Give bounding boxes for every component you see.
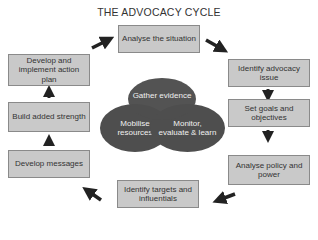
center-gather-evidence: Gather evidence <box>128 78 196 120</box>
step-analyse-situation: Analyse the situation <box>118 25 200 53</box>
step-identify-advocacy-issue: Identify advocacy issue <box>228 59 310 87</box>
step-label: Develop messages <box>15 159 83 169</box>
step-label: Analyse policy and power <box>232 161 306 180</box>
step-label: Identify targets and influentials <box>121 185 195 204</box>
center-label: Gather evidence <box>132 91 192 101</box>
step-develop-messages: Develop messages <box>8 150 90 178</box>
arrow-icon <box>88 191 101 200</box>
step-label: Analyse the situation <box>122 34 196 44</box>
arrow-icon <box>219 194 235 200</box>
arrow-icon <box>206 40 222 49</box>
step-develop-action-plan: Develop and implement action plan <box>8 54 90 86</box>
step-label: Identify advocacy issue <box>232 64 306 83</box>
step-build-strength: Build added strength <box>8 102 90 132</box>
step-identify-targets: Identify targets and influentials <box>117 180 199 208</box>
step-label: Build added strength <box>12 112 85 122</box>
arrow-icon <box>92 40 108 48</box>
step-label: Set goals and objectives <box>232 104 306 123</box>
step-label: Develop and implement action plan <box>12 56 86 85</box>
step-set-goals: Set goals and objectives <box>228 99 310 127</box>
center-label: Monitor, evaluate & learn <box>158 119 218 138</box>
step-analyse-policy-power: Analyse policy and power <box>228 155 310 185</box>
